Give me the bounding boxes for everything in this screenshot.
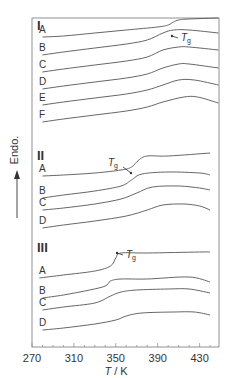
series-label: B — [39, 42, 46, 53]
curve-I-E — [42, 79, 218, 105]
curve-III-D — [42, 312, 210, 330]
x-axis-label: T / K — [104, 365, 128, 377]
panel-label: II — [37, 148, 44, 163]
tg-label: Tg — [108, 157, 118, 170]
x-tick-label: 430 — [190, 352, 208, 364]
curves — [39, 18, 218, 330]
series-label: C — [39, 59, 46, 70]
series-label: C — [39, 197, 46, 208]
tg-label: Tg — [181, 32, 191, 45]
series-label: B — [39, 285, 46, 296]
plot-frame — [32, 18, 219, 347]
curve-I-D — [42, 64, 218, 90]
curve-I-C — [42, 47, 218, 72]
curve-III-B — [42, 277, 210, 298]
x-tick-label: 310 — [65, 352, 83, 364]
x-tick-labels: 270310350390430 — [23, 352, 209, 364]
series-label: A — [39, 163, 46, 174]
endo-arrow-icon — [14, 170, 20, 218]
curve-I-B — [42, 30, 218, 55]
curve-III-A — [39, 252, 210, 278]
x-tick-label: 270 — [23, 352, 41, 364]
series-label: B — [39, 185, 46, 196]
series-label: F — [39, 109, 45, 120]
curve-II-C — [42, 186, 210, 210]
series-label: A — [39, 24, 46, 35]
y-axis-label: Endo. — [8, 136, 20, 165]
x-tick-label: 390 — [149, 352, 167, 364]
series-label: D — [39, 215, 46, 226]
series-labels: IABCDEFIIABCDIIIABCDTgTgTg — [37, 18, 191, 328]
series-label: E — [39, 92, 46, 103]
curve-I-A — [42, 18, 218, 37]
series-label: A — [39, 265, 46, 276]
series-label: D — [39, 317, 46, 328]
curve-I-F — [42, 96, 218, 122]
x-ticks — [32, 343, 210, 347]
series-label: D — [39, 76, 46, 87]
x-tick-label: 350 — [107, 352, 125, 364]
curve-II-B — [42, 172, 210, 198]
series-label: C — [39, 297, 46, 308]
dsc-chart: 270310350390430 IABCDEFIIABCDIIIABCDTgTg… — [0, 0, 230, 378]
tg-label: Tg — [126, 249, 136, 262]
panel-label: III — [37, 240, 48, 255]
curve-III-C — [42, 289, 210, 310]
